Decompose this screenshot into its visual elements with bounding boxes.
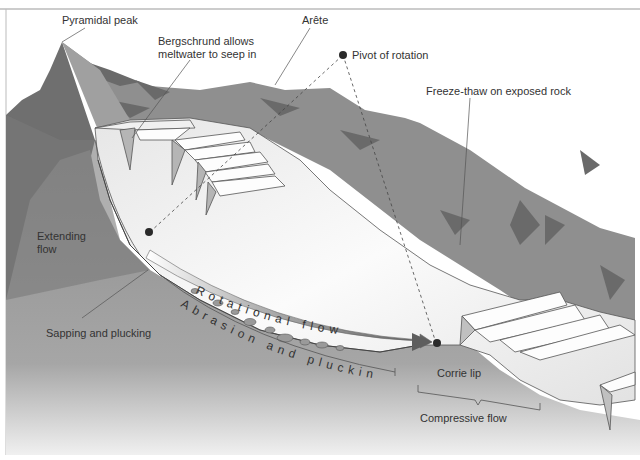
label-pivot: Pivot of rotation <box>352 49 428 61</box>
pivot-dot <box>339 51 347 59</box>
corrie-lip-dot <box>433 339 441 347</box>
corrie-glacier-diagram: Pyramidal peak Bergschrund allows meltwa… <box>0 0 640 460</box>
label-sapping: Sapping and plucking <box>46 327 151 339</box>
label-pyramidal-peak: Pyramidal peak <box>62 14 138 26</box>
label-freeze-thaw: Freeze-thaw on exposed rock <box>426 85 571 97</box>
label-bergschrund-2: meltwater to seep in <box>158 48 256 60</box>
arete-leader <box>275 28 310 85</box>
pyramidal-peak-leader <box>62 28 85 42</box>
label-arete: Arête <box>302 14 328 26</box>
label-corrie-lip: Corrie lip <box>437 367 481 379</box>
label-extending-2: flow <box>37 243 57 255</box>
label-compressive-flow: Compressive flow <box>420 412 507 424</box>
label-extending-1: Extending <box>37 230 86 242</box>
extending-dot <box>145 228 153 236</box>
label-bergschrund-1: Bergschrund allows <box>158 35 254 47</box>
